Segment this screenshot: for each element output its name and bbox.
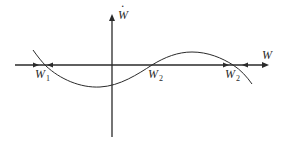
equilibrium-label-1: W 1	[35, 67, 50, 83]
svg-text:W: W	[225, 67, 236, 81]
svg-text:2: 2	[236, 74, 240, 83]
svg-text:·: ·	[121, 0, 124, 13]
wdot-curve	[33, 50, 252, 87]
equilibrium-label-3: W 2	[225, 67, 240, 83]
w-axis-label: W	[262, 48, 273, 62]
equilibrium-label-2: W 2	[148, 67, 163, 83]
svg-text:W: W	[148, 67, 159, 81]
phase-diagram: W · W W 1 W 2 W 2	[0, 0, 282, 144]
wdot-axis-arrowhead-icon	[109, 14, 115, 21]
svg-text:2: 2	[159, 74, 163, 83]
svg-text:1: 1	[46, 74, 50, 83]
wdot-axis-label: W ·	[118, 0, 129, 22]
w-axis-arrowhead-icon	[262, 62, 269, 68]
svg-text:W: W	[35, 67, 46, 81]
flow-arrow-left-icon	[242, 63, 248, 68]
flow-arrow-left-icon	[47, 63, 53, 68]
